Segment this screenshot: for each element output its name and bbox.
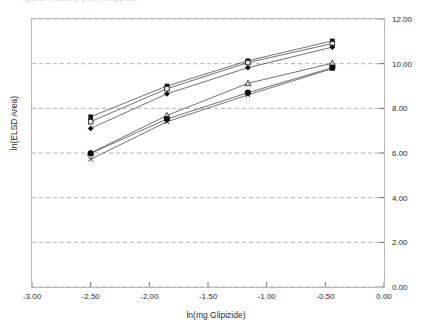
y-tick-label: 0.00: [392, 283, 408, 292]
y-tick-label: 2.00: [392, 238, 408, 247]
y-tick-labels: 0.002.004.006.008.0010.0012.00: [0, 0, 432, 332]
chart-page: Figure: linearity plot (cropped) -3.00-2…: [0, 0, 432, 332]
y-tick-label: 8.00: [392, 104, 408, 113]
x-axis-title: ln(mg Glipizide): [0, 310, 432, 320]
y-tick-label: 12.00: [392, 15, 412, 24]
y-tick-label: 6.00: [392, 149, 408, 158]
y-tick-label: 10.00: [392, 59, 412, 68]
y-tick-label: 4.00: [392, 193, 408, 202]
y-axis-title: ln(ELSD Area): [9, 63, 19, 183]
